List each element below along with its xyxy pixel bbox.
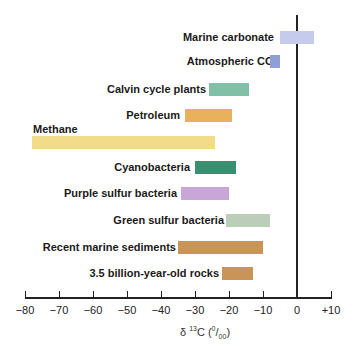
label-marine-carbonate: Marine carbonate <box>183 31 274 44</box>
label-petroleum: Petroleum <box>126 109 180 122</box>
x-tick <box>59 291 60 297</box>
x-title-main: C ( <box>197 326 212 338</box>
label-cyanobacteria: Cyanobacteria <box>114 161 190 174</box>
zero-reference-line <box>296 15 298 298</box>
label-atmospheric-co2-main: Atmospheric CO <box>187 55 274 67</box>
x-tick-label: +10 <box>322 304 341 316</box>
x-tick-label: −80 <box>16 304 35 316</box>
x-tick <box>195 291 196 297</box>
x-tick-label: 0 <box>294 304 300 316</box>
x-tick <box>25 291 26 297</box>
bar-atmospheric-co2 <box>270 55 280 68</box>
x-tick-label: −10 <box>254 304 273 316</box>
x-tick <box>161 291 162 297</box>
bar-green-sulfur-bacteria <box>226 214 270 227</box>
x-title-sup: 13 <box>189 325 197 332</box>
label-calvin-cycle-plants: Calvin cycle plants <box>107 83 206 96</box>
x-tick <box>331 291 332 297</box>
x-title-delta: δ <box>180 326 189 338</box>
x-tick-label: −30 <box>186 304 205 316</box>
x-tick <box>263 291 264 297</box>
label-atmospheric-co2: Atmospheric CO2 <box>187 55 278 72</box>
x-tick-label: −50 <box>118 304 137 316</box>
bar-cyanobacteria <box>195 161 236 174</box>
x-tick-label: −70 <box>50 304 69 316</box>
label-methane: Methane <box>33 123 78 136</box>
x-tick <box>229 291 230 297</box>
bar-methane <box>32 136 216 149</box>
bar-calvin-cycle-plants <box>209 83 250 96</box>
x-tick <box>93 291 94 297</box>
bar-recent-marine-sediments <box>178 241 263 254</box>
label-3-5-billion-year-old-rocks: 3.5 billion-year-old rocks <box>89 267 219 280</box>
x-axis-title: δ 13C (0/00) <box>180 325 230 340</box>
x-tick-label: −20 <box>220 304 239 316</box>
x-axis-line <box>25 297 332 299</box>
bar-marine-carbonate <box>280 31 314 44</box>
x-title-close: ) <box>226 326 230 338</box>
bar-purple-sulfur-bacteria <box>181 187 229 200</box>
bar-3-5-billion-year-old-rocks <box>222 267 253 280</box>
label-recent-marine-sediments: Recent marine sediments <box>43 241 176 254</box>
x-tick <box>127 291 128 297</box>
x-tick-label: −40 <box>152 304 171 316</box>
x-tick-label: −60 <box>84 304 103 316</box>
label-purple-sulfur-bacteria: Purple sulfur bacteria <box>64 187 177 200</box>
label-green-sulfur-bacteria: Green sulfur bacteria <box>113 214 224 227</box>
x-tick <box>297 291 298 297</box>
bar-petroleum <box>185 109 233 122</box>
isotope-range-chart: Marine carbonate Atmospheric CO2 Calvin … <box>0 0 358 351</box>
